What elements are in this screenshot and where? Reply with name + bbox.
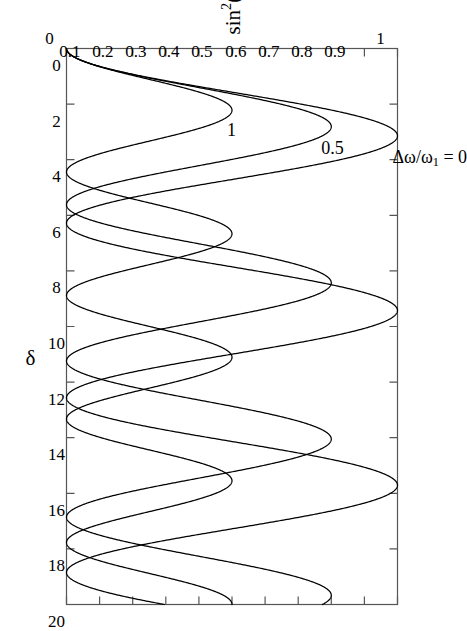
parameter-annotation-suffix: = 0 xyxy=(438,146,466,166)
y-axis-tick-label: 0.7 xyxy=(257,42,278,59)
y-axis-tick-label: 0 xyxy=(45,30,54,47)
y-axis-tick-label: 0.4 xyxy=(158,42,179,59)
parameter-annotation-prefix: Δω/ω xyxy=(392,146,432,166)
y-axis-tick-label: 0.6 xyxy=(224,42,245,59)
x-axis-tick-label: 12 xyxy=(48,390,65,407)
x-axis-tick-label: 8 xyxy=(52,279,61,296)
data-curve-1 xyxy=(66,48,331,604)
y-axis-title: sin2(θ/2) xyxy=(219,0,243,34)
x-axis-tick-label: 10 xyxy=(48,335,65,352)
y-axis-title-prefix: sin xyxy=(221,10,245,35)
y-axis-title-suffix: (θ/2) xyxy=(221,0,245,2)
x-axis-tick-label: 14 xyxy=(48,446,65,463)
y-axis-tick-label: 0.1 xyxy=(59,42,80,59)
x-axis-tick-label: 20 xyxy=(48,613,65,630)
y-axis-tick-label: 0.5 xyxy=(191,42,212,59)
x-axis-title: δ xyxy=(25,348,35,369)
y-axis-tick-label: 0.3 xyxy=(125,42,146,59)
y-axis-tick-label: 0.9 xyxy=(324,42,345,59)
x-axis-tick-label: 4 xyxy=(52,168,61,185)
x-axis-tick-label: 2 xyxy=(52,112,61,129)
y-axis-tick-label: 0.2 xyxy=(92,42,113,59)
x-axis-tick-label: 18 xyxy=(48,557,65,574)
x-axis-tick-label: 6 xyxy=(52,223,61,240)
curve-label-0point5: 0.5 xyxy=(321,138,344,156)
parameter-annotation: Δω/ω1 = 0 xyxy=(392,147,467,168)
data-curve-2 xyxy=(66,48,232,604)
curve-label-1: 1 xyxy=(227,120,236,138)
y-axis-title-exponent: 2 xyxy=(218,2,234,9)
y-axis-tick-label: 1 xyxy=(376,30,385,47)
x-axis-tick-label: 16 xyxy=(48,501,65,518)
y-axis-tick-label: 0.8 xyxy=(290,42,311,59)
